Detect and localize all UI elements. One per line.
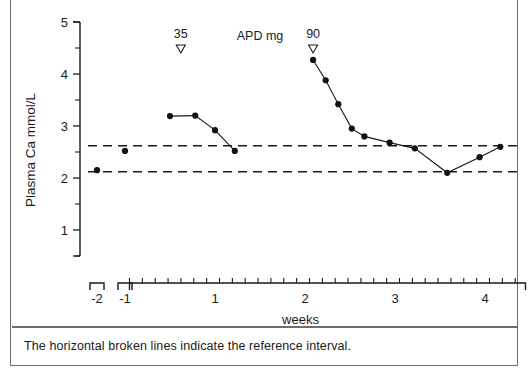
data-point: [192, 113, 198, 119]
data-point: [387, 140, 393, 146]
annotation-label-dose-35: 35: [174, 27, 188, 41]
down-triangle-icon: [309, 45, 318, 53]
x-axis-tick-label: -1: [119, 291, 131, 306]
data-point: [497, 144, 503, 150]
data-point: [335, 101, 341, 107]
x-axis-segment-week-minus2: [90, 283, 104, 290]
series-line-2: [313, 60, 500, 173]
x-axis-tick-label: 1: [211, 291, 218, 306]
annotation-label-dose-90: 90: [306, 27, 320, 41]
figure-caption: The horizontal broken lines indicate the…: [24, 339, 494, 353]
x-axis-tick-label: 2: [301, 291, 308, 306]
y-axis-tick-label: 4: [61, 67, 68, 82]
y-axis-title: Plasma Ca mmol/L: [23, 93, 38, 208]
y-axis-tick-label: 3: [61, 119, 68, 134]
x-axis-title: weeks: [281, 312, 319, 327]
data-point: [212, 127, 218, 133]
annotation-label-apd-units: APD mg: [237, 29, 284, 43]
data-point: [122, 148, 128, 154]
x-axis-tick-label: 4: [481, 291, 488, 306]
x-axis-tick-label: 3: [391, 291, 398, 306]
data-point: [349, 126, 355, 132]
data-point: [167, 113, 173, 119]
plasma-calcium-chart: 54321Plasma Ca mmol/L-2-11234weeks3590AP…: [0, 0, 530, 378]
data-point: [361, 133, 367, 139]
x-axis-tick-label: -2: [91, 291, 103, 306]
y-axis-tick-label: 1: [61, 223, 68, 238]
y-axis-tick-label: 2: [61, 171, 68, 186]
data-point: [412, 145, 418, 151]
data-point: [232, 148, 238, 154]
data-point: [444, 170, 450, 176]
chart-canvas: 54321Plasma Ca mmol/L-2-11234weeks3590AP…: [0, 0, 530, 378]
data-point: [477, 154, 483, 160]
x-axis-main-segment: [130, 283, 526, 290]
down-triangle-icon: [176, 45, 185, 53]
data-point: [310, 57, 316, 63]
data-point: [94, 167, 100, 173]
y-axis-tick-label: 5: [61, 15, 68, 30]
data-point: [323, 77, 329, 83]
